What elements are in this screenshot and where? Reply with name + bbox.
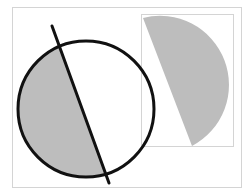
diagram-canvas <box>0 0 252 196</box>
